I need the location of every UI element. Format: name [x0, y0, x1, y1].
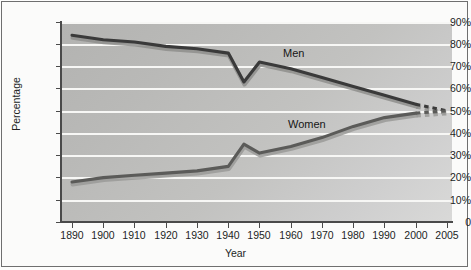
x-tick — [322, 223, 323, 228]
y-tick-label: 70% — [423, 61, 471, 71]
x-tick — [384, 223, 385, 228]
x-tick — [291, 223, 292, 228]
x-tick-label: 2005 — [427, 230, 467, 241]
gridline — [61, 66, 452, 68]
x-tick — [447, 223, 448, 228]
x-tick — [197, 223, 198, 228]
y-tick-label: 10% — [423, 195, 471, 205]
series-label-men: Men — [283, 47, 304, 59]
y-tick-label: 90% — [423, 17, 471, 27]
y-axis-title: Percentage — [10, 59, 22, 149]
y-tick — [56, 222, 61, 223]
y-tick-label: 80% — [423, 39, 471, 49]
y-tick-label: 50% — [423, 106, 471, 116]
x-tick — [166, 223, 167, 228]
plot-area — [61, 22, 452, 222]
y-tick — [56, 155, 61, 156]
y-tick-label: 20% — [423, 172, 471, 182]
chart-figure: 90% 80% 70% 60% 50% 40% 30% 20% 10% 0 18… — [0, 0, 471, 270]
x-tick — [353, 223, 354, 228]
y-tick — [56, 133, 61, 134]
series-label-women: Women — [288, 118, 326, 130]
x-axis-line — [60, 221, 453, 223]
y-tick — [56, 200, 61, 201]
y-tick — [56, 22, 61, 23]
x-tick — [134, 223, 135, 228]
y-tick — [56, 177, 61, 178]
gridline — [61, 155, 452, 157]
y-axis-line — [60, 21, 62, 223]
x-tick — [228, 223, 229, 228]
gridline — [61, 22, 452, 24]
x-tick — [259, 223, 260, 228]
y-tick — [56, 111, 61, 112]
y-tick — [56, 88, 61, 89]
x-tick — [416, 223, 417, 228]
x-tick — [103, 223, 104, 228]
y-tick — [56, 44, 61, 45]
y-tick-label: 40% — [423, 128, 471, 138]
y-tick — [56, 66, 61, 67]
y-tick-label: 60% — [423, 83, 471, 93]
gridline — [61, 177, 452, 179]
gridline — [61, 200, 452, 202]
gridline — [61, 111, 452, 113]
gridline — [61, 44, 452, 46]
x-axis-title: Year — [0, 247, 471, 259]
gridline — [61, 88, 452, 90]
y-tick-label: 30% — [423, 150, 471, 160]
x-tick — [72, 223, 73, 228]
gridline — [61, 133, 452, 135]
